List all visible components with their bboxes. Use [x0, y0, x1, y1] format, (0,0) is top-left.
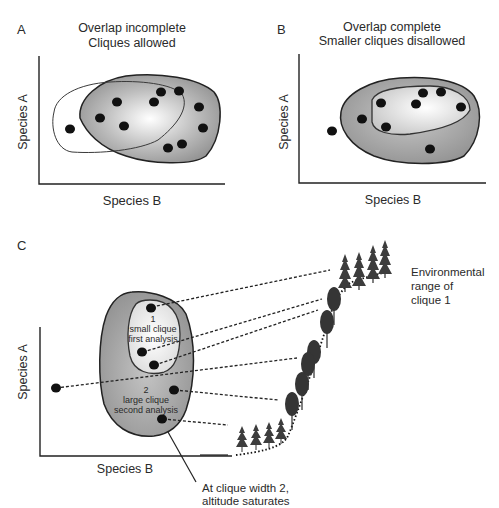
data-point — [425, 145, 435, 154]
panel-b-title-line1: Overlap complete — [343, 20, 441, 34]
panel-a-title-line1: Overlap incomplete — [78, 21, 186, 35]
clique2-label-line1: large clique — [123, 395, 169, 405]
panel-b-letter: B — [277, 22, 286, 37]
data-point — [177, 140, 187, 149]
annotation-line2: altitude saturates — [202, 495, 290, 507]
panel-a: A Overlap incomplete Cliques allowed Spe… — [16, 21, 225, 208]
conifer-tree — [366, 245, 380, 283]
data-point — [119, 122, 129, 131]
panel-c: C Species A Species B 1 small clique fir… — [16, 238, 485, 507]
panel-c-letter: C — [17, 238, 26, 253]
annotation-line1: At clique width 2, — [202, 482, 289, 494]
conifer-tree — [250, 424, 262, 450]
data-point — [357, 115, 367, 124]
data-point — [149, 361, 159, 370]
data-point — [65, 125, 75, 134]
panel-b-x-axis-label: Species B — [365, 193, 421, 207]
data-point — [169, 386, 179, 395]
data-point — [194, 103, 204, 112]
conifer-tree — [338, 254, 352, 292]
panel-b-y-axis-label: Species A — [277, 94, 291, 150]
data-point — [376, 99, 386, 108]
conifer-trees-bottom — [236, 418, 287, 452]
conifer-tree — [263, 422, 275, 448]
conifer-tree — [352, 252, 366, 290]
data-point — [137, 348, 147, 357]
clique1-label-line2: first analysis — [128, 334, 178, 344]
deciduous-tree — [285, 392, 299, 430]
panel-a-title-line2: Cliques allowed — [88, 36, 176, 50]
annotation-leader-line — [168, 432, 196, 482]
panel-a-y-axis-label: Species A — [16, 94, 30, 150]
data-point — [174, 87, 184, 96]
figure-canvas: A Overlap incomplete Cliques allowed Spe… — [0, 0, 499, 508]
data-point — [456, 103, 466, 112]
panel-c-x-axis-label: Species B — [97, 462, 153, 476]
data-point — [146, 304, 156, 313]
data-point — [418, 89, 428, 98]
env-range-line3: clique 1 — [411, 294, 451, 306]
data-point — [149, 98, 159, 107]
clique1-label-line1: small clique — [129, 324, 176, 334]
data-point — [95, 114, 105, 123]
data-point — [327, 127, 337, 136]
data-point — [112, 98, 122, 107]
panel-a-letter: A — [17, 22, 26, 37]
clique1-number: 1 — [150, 314, 155, 324]
data-point — [381, 123, 391, 132]
conifer-tree — [378, 240, 392, 278]
panel-b-title-line2: Smaller cliques disallowed — [319, 34, 466, 48]
panel-a-x-axis-label: Species B — [103, 193, 162, 208]
data-point — [198, 124, 208, 133]
data-point — [157, 415, 167, 424]
data-point — [156, 88, 166, 97]
conifer-tree — [236, 426, 248, 452]
data-point — [163, 144, 173, 153]
panel-c-y-axis-label: Species A — [16, 344, 30, 400]
projection-line — [152, 270, 330, 307]
conifer-trees-top — [338, 240, 392, 292]
env-range-line2: range of — [411, 280, 454, 292]
panel-b: B Overlap complete Smaller cliques disal… — [277, 20, 486, 207]
data-point — [411, 100, 421, 109]
deciduous-trees — [285, 287, 341, 430]
clique2-label-line2: second analysis — [114, 405, 179, 415]
data-point — [51, 384, 61, 393]
env-range-line1: Environmental — [411, 266, 485, 278]
clique2-number: 2 — [143, 385, 148, 395]
data-point — [436, 88, 446, 97]
